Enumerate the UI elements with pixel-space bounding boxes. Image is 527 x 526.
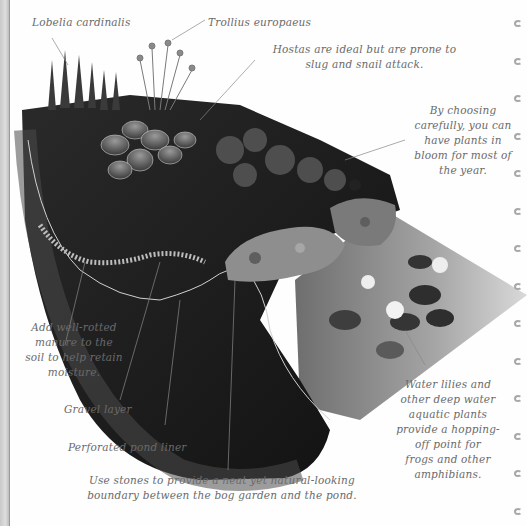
label-manure-line-3: soil to help retain xyxy=(18,350,130,365)
binding-ring-icon xyxy=(514,433,522,440)
binding-ring-icon xyxy=(514,508,522,515)
book-page: Lobelia cardinalis Trollius europaeus Ho… xyxy=(0,0,527,526)
label-manure-line-1: Add well-rotted xyxy=(18,320,130,335)
binding-ring-icon xyxy=(514,170,522,177)
label-lilies-line-6: frogs and other xyxy=(392,452,504,467)
spiral-binding xyxy=(514,0,527,526)
label-choosing-line-1: By choosing xyxy=(408,103,518,118)
label-manure-line-4: moisture. xyxy=(18,365,130,380)
binding-ring-icon xyxy=(514,20,522,27)
label-stones-line-2: boundary between the bog garden and the … xyxy=(72,488,372,503)
label-gravel-layer: Gravel layer xyxy=(64,402,132,417)
label-choosing-line-5: the year. xyxy=(408,163,518,178)
binding-ring-icon xyxy=(514,283,522,290)
label-hostas: Hostas are ideal but are prone to slug a… xyxy=(262,42,467,72)
label-water-lilies: Water lilies and other deep water aquati… xyxy=(392,377,504,482)
binding-ring-icon xyxy=(514,245,522,252)
binding-ring-icon xyxy=(514,95,522,102)
label-choosing-line-3: have plants in xyxy=(408,133,518,148)
binding-ring-icon xyxy=(514,358,522,365)
label-stones-line-1: Use stones to provide a neat yet natural… xyxy=(72,473,372,488)
label-lilies-line-4: provide a hopping- xyxy=(392,422,504,437)
label-lilies-line-1: Water lilies and xyxy=(392,377,504,392)
label-hostas-line-2: slug and snail attack. xyxy=(262,57,467,72)
label-manure: Add well-rotted manure to the soil to he… xyxy=(18,320,130,380)
label-manure-line-2: manure to the xyxy=(18,335,130,350)
binding-ring-icon xyxy=(514,320,522,327)
binding-ring-icon xyxy=(514,395,522,402)
label-lilies-line-3: aquatic plants xyxy=(392,407,504,422)
label-choosing-plants: By choosing carefully, you can have plan… xyxy=(408,103,518,178)
binding-ring-icon xyxy=(514,133,522,140)
binding-ring-icon xyxy=(514,58,522,65)
binding-ring-icon xyxy=(514,208,522,215)
label-lilies-line-2: other deep water xyxy=(392,392,504,407)
label-hostas-line-1: Hostas are ideal but are prone to xyxy=(262,42,467,57)
label-lilies-line-5: off point for xyxy=(392,437,504,452)
label-lobelia-cardinalis: Lobelia cardinalis xyxy=(32,15,131,30)
binding-ring-icon xyxy=(514,470,522,477)
label-stones: Use stones to provide a neat yet natural… xyxy=(72,473,372,503)
label-choosing-line-2: carefully, you can xyxy=(408,118,518,133)
label-perforated-pond-liner: Perforated pond liner xyxy=(68,440,187,455)
label-trollius-europaeus: Trollius europaeus xyxy=(208,15,311,30)
label-lilies-line-7: amphibians. xyxy=(392,467,504,482)
label-choosing-line-4: bloom for most of xyxy=(408,148,518,163)
